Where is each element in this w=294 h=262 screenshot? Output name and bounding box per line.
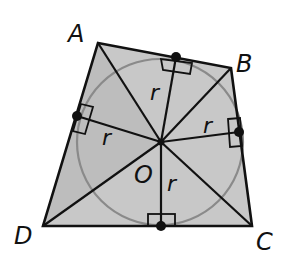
- center-label-o: O: [134, 161, 153, 189]
- vertex-label-c: C: [256, 228, 273, 256]
- vertex-label-a: A: [66, 20, 84, 48]
- geometry-figure: A B C D O r r r r: [0, 0, 294, 262]
- vertex-label-d: D: [14, 222, 32, 250]
- vertex-label-b: B: [236, 50, 252, 78]
- center-point: [158, 139, 165, 146]
- diagram-stage: A B C D O r r r r: [0, 0, 294, 262]
